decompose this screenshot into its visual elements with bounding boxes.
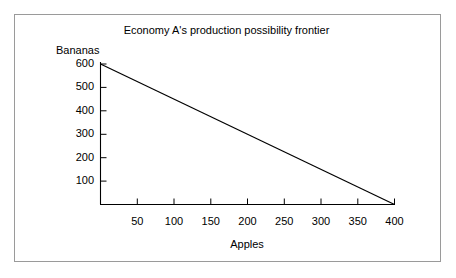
y-tick-label: 200: [60, 151, 94, 163]
x-tick-label: 100: [157, 215, 191, 227]
y-tick-label: 400: [60, 104, 94, 116]
x-tick-label: 400: [378, 215, 412, 227]
x-tick-label: 150: [194, 215, 228, 227]
y-tick-label: 500: [60, 80, 94, 92]
x-tick-label: 250: [267, 215, 301, 227]
chart-figure: Economy A's production possibility front…: [0, 0, 456, 278]
x-axis-ticks: [137, 199, 394, 205]
y-tick-label: 300: [60, 127, 94, 139]
x-tick-label: 50: [120, 215, 154, 227]
ppf-line: [101, 64, 395, 205]
x-tick-label: 300: [304, 215, 338, 227]
x-tick-label: 200: [231, 215, 265, 227]
data-series-group: [101, 64, 395, 205]
y-axis-ticks: [101, 64, 107, 181]
y-tick-label: 100: [60, 174, 94, 186]
x-tick-label: 350: [341, 215, 375, 227]
y-tick-label: 600: [60, 57, 94, 69]
